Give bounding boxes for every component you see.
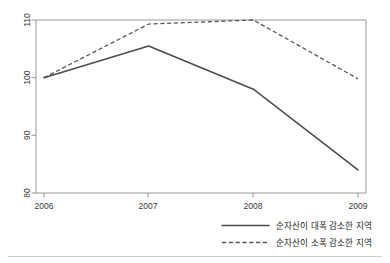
x-tick-label-2009: 2009 bbox=[349, 201, 368, 211]
x-tick-label-2008: 2008 bbox=[244, 201, 263, 211]
y-tick-label-90: 90 bbox=[22, 130, 32, 140]
y-axis-labels: 110 100 90 80 bbox=[22, 13, 32, 198]
chart-legend: 순자산이 대폭 감소한 지역 순자산이 소폭 감소한 지역 bbox=[222, 220, 372, 248]
x-axis-labels: 2006 2007 2008 2009 bbox=[35, 201, 368, 211]
legend-label-sharp-decline: 순자산이 대폭 감소한 지역 bbox=[276, 220, 372, 231]
x-tick-label-2007: 2007 bbox=[139, 201, 158, 211]
legend-label-soft-decline: 순자산이 소폭 감소한 지역 bbox=[276, 237, 372, 248]
plot-frame bbox=[36, 20, 366, 193]
y-tick-label-100: 100 bbox=[22, 70, 32, 84]
x-tick-label-2006: 2006 bbox=[35, 201, 54, 211]
y-tick-label-80: 80 bbox=[22, 188, 32, 198]
plot-axes bbox=[32, 20, 367, 198]
series-line-sharp-decline bbox=[44, 46, 358, 170]
series-line-soft-decline bbox=[44, 20, 358, 79]
data-series-group bbox=[44, 20, 358, 170]
y-tick-label-110: 110 bbox=[22, 13, 32, 27]
line-chart-figure: 110 100 90 80 2006 2007 2008 2009 순자산이 대… bbox=[0, 0, 390, 263]
